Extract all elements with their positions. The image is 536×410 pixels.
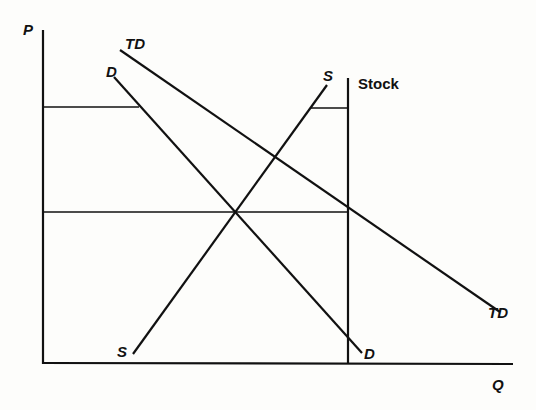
supply-demand-diagram: P Q TD D S Stock TD D S — [0, 0, 536, 410]
demand-curve — [114, 77, 362, 353]
total-demand-curve — [120, 50, 500, 312]
quantity-axis — [42, 363, 513, 364]
demand-label-top: D — [106, 64, 117, 79]
supply-label-bottom: S — [117, 344, 127, 359]
supply-label-top: S — [323, 68, 333, 83]
total-demand-label-top: TD — [125, 36, 145, 51]
price-axis-label: P — [23, 22, 33, 37]
diagram-canvas — [0, 0, 536, 410]
stock-label: Stock — [358, 76, 399, 91]
total-demand-label-bottom: TD — [488, 305, 508, 320]
demand-label-bottom: D — [364, 346, 375, 361]
quantity-axis-label: Q — [492, 377, 504, 392]
